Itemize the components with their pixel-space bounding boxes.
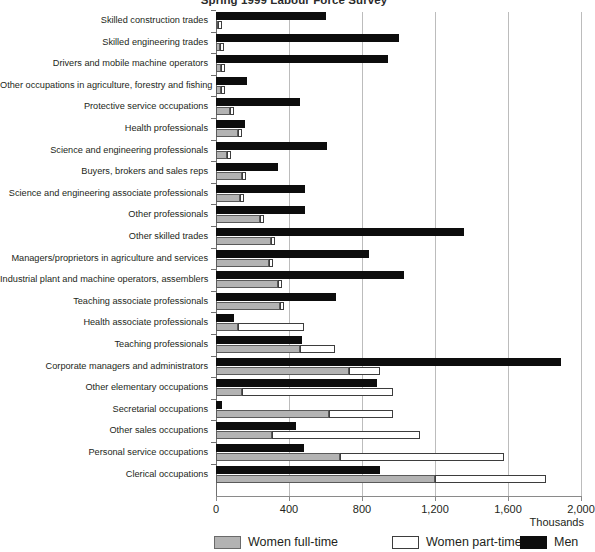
x-tick-label-800: 800 <box>353 503 371 515</box>
x-axis-line <box>216 496 582 497</box>
legend-swatch-icon <box>214 536 241 549</box>
bar-women-part-time <box>230 107 234 115</box>
category-label: Skilled engineering trades <box>0 37 208 47</box>
legend-item-men[interactable]: Men <box>520 535 578 549</box>
bar-men <box>216 401 222 409</box>
bar-women-part-time <box>272 431 421 439</box>
bar-group: Other elementary occupations <box>216 379 581 397</box>
bar-group: Health associate professionals <box>216 314 581 332</box>
category-tick <box>211 10 216 11</box>
category-tick <box>211 118 216 119</box>
category-label: Other sales occupations <box>0 425 208 435</box>
bar-women-full-time <box>216 453 340 461</box>
bar-women-full-time <box>216 367 349 375</box>
category-tick <box>211 399 216 400</box>
legend-swatch-icon <box>520 536 547 549</box>
bar-women-full-time <box>216 388 242 396</box>
bar-women-full-time <box>216 475 435 483</box>
bar-group: Buyers, brokers and sales reps <box>216 163 581 181</box>
bar-group: Science and engineering associate profes… <box>216 185 581 203</box>
bar-group: Industrial plant and machine operators, … <box>216 271 581 289</box>
bar-women-full-time <box>216 215 260 223</box>
category-label: Teaching associate professionals <box>0 296 208 306</box>
bar-women-part-time <box>221 86 225 94</box>
category-label: Clerical occupations <box>0 469 208 479</box>
bar-women-full-time <box>216 280 278 288</box>
bar-men <box>216 422 296 430</box>
chart-legend: Women full-timeWomen part-timeMen <box>0 533 588 552</box>
category-label: Science and engineering associate profes… <box>0 188 208 198</box>
bar-women-full-time <box>216 237 271 245</box>
bar-men <box>216 12 326 20</box>
plot-area: Skilled construction tradesSkilled engin… <box>216 12 581 496</box>
category-tick <box>211 183 216 184</box>
bar-women-part-time <box>280 302 284 310</box>
x-tick-label-0: 0 <box>213 503 219 515</box>
category-tick <box>211 53 216 54</box>
bar-women-part-time <box>240 194 244 202</box>
category-label: Drivers and mobile machine operators <box>0 58 208 68</box>
x-tick-800 <box>362 496 363 501</box>
gridline-2000 <box>581 12 582 496</box>
bar-men <box>216 77 247 85</box>
bar-group: Corporate managers and administrators <box>216 358 581 376</box>
category-label: Industrial plant and machine operators, … <box>0 274 208 284</box>
category-tick <box>211 161 216 162</box>
bar-men <box>216 206 305 214</box>
bar-group: Other skilled trades <box>216 228 581 246</box>
category-label: Other professionals <box>0 209 208 219</box>
x-axis-unit-label: Thousands <box>530 516 584 528</box>
category-label: Managers/proprietors in agriculture and … <box>0 253 208 263</box>
bar-women-part-time <box>260 215 264 223</box>
bar-women-full-time <box>216 172 242 180</box>
category-tick <box>211 248 216 249</box>
bar-women-part-time <box>329 410 393 418</box>
bar-women-part-time <box>271 237 275 245</box>
bar-women-part-time <box>242 172 246 180</box>
bar-women-full-time <box>216 107 230 115</box>
category-tick <box>211 75 216 76</box>
category-tick <box>211 464 216 465</box>
category-label: Corporate managers and administrators <box>0 361 208 371</box>
bar-women-part-time <box>349 367 380 375</box>
x-tick-2000 <box>581 496 582 501</box>
x-tick-1600 <box>508 496 509 501</box>
legend-item-women-full-time[interactable]: Women full-time <box>214 535 338 549</box>
bar-men <box>216 293 336 301</box>
bar-group: Other occupations in agriculture, forest… <box>216 77 581 95</box>
x-tick-1200 <box>435 496 436 501</box>
bar-men <box>216 336 302 344</box>
bar-group: Science and engineering professionals <box>216 142 581 160</box>
bar-group: Other sales occupations <box>216 422 581 440</box>
bar-men <box>216 444 304 452</box>
bar-group: Teaching professionals <box>216 336 581 354</box>
bar-group: Drivers and mobile machine operators <box>216 55 581 73</box>
bar-group: Protective service occupations <box>216 98 581 116</box>
category-tick <box>211 334 216 335</box>
x-tick-label-2000: 2,000 <box>567 503 595 515</box>
category-tick <box>211 442 216 443</box>
bar-women-part-time <box>242 388 393 396</box>
legend-item-women-part-time[interactable]: Women part-time <box>392 535 522 549</box>
bar-women-part-time <box>238 323 304 331</box>
category-tick <box>211 420 216 421</box>
bar-men <box>216 142 327 150</box>
bar-men <box>216 98 300 106</box>
x-tick-0 <box>216 496 217 501</box>
bar-group: Health professionals <box>216 120 581 138</box>
bar-women-full-time <box>216 323 238 331</box>
bar-women-part-time <box>218 21 222 29</box>
category-label: Other elementary occupations <box>0 382 208 392</box>
category-tick <box>211 32 216 33</box>
legend-swatch-icon <box>392 536 419 549</box>
bar-women-full-time <box>216 302 280 310</box>
category-label: Personal service occupations <box>0 447 208 457</box>
bar-women-part-time <box>300 345 335 353</box>
category-label: Other skilled trades <box>0 231 208 241</box>
chart-title: Spring 1999 Labour Force Survey <box>0 0 588 7</box>
bar-women-full-time <box>216 345 300 353</box>
bar-group: Other professionals <box>216 206 581 224</box>
x-tick-400 <box>289 496 290 501</box>
category-label: Buyers, brokers and sales reps <box>0 166 208 176</box>
